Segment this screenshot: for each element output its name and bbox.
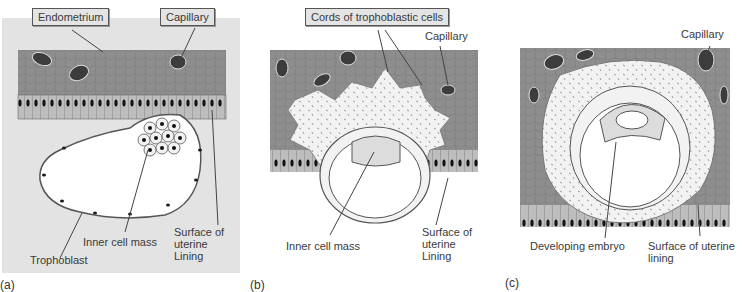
cords-label: Cords of trophoblastic cells	[305, 8, 449, 26]
surface-label-a-2: uterine	[174, 238, 208, 250]
trophoblast-label: Trophoblast	[30, 254, 88, 266]
endometrium-label: Endometrium	[32, 8, 109, 26]
capillary-label-a: Capillary	[160, 8, 215, 26]
surface-label-a-3: Lining	[174, 250, 203, 262]
surface-label-c-2: lining	[648, 252, 674, 264]
surface-label-a-1: Surface of	[174, 226, 224, 238]
developing-embryo-label: Developing embryo	[530, 240, 625, 252]
capillary-label-b: Capillary	[425, 30, 468, 42]
surface-label-b-3: Lining	[422, 250, 451, 262]
panel-a-illustration	[0, 0, 743, 292]
inner-cell-mass-label-b: Inner cell mass	[286, 240, 360, 252]
surface-label-b-1: Surface of	[422, 226, 472, 238]
inner-cell-mass-label-a: Inner cell mass	[83, 236, 157, 248]
surface-label-c-1: Surface of uterine	[648, 240, 735, 252]
caption-c: (c)	[505, 276, 519, 290]
caption-a: (a)	[0, 278, 15, 292]
caption-b: (b)	[250, 278, 265, 292]
surface-label-b-2: uterine	[422, 238, 456, 250]
capillary-label-c: Capillary	[681, 28, 724, 40]
